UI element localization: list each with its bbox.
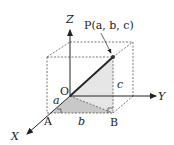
- point-p-dot: [111, 55, 115, 59]
- y-axis-label: Y: [158, 90, 167, 103]
- coordinate-diagram: Z Y X O P(a, b, c) A B a b c: [0, 0, 174, 145]
- length-b-label: b: [78, 115, 85, 128]
- origin-label: O: [60, 85, 69, 98]
- length-a-label: a: [53, 94, 60, 107]
- z-axis-label: Z: [65, 13, 74, 26]
- point-p-label: P(a, b, c): [84, 19, 134, 32]
- point-a-label: A: [43, 115, 53, 128]
- point-b-label: B: [110, 116, 118, 129]
- length-c-label: c: [117, 78, 123, 91]
- x-axis-label: X: [10, 130, 20, 143]
- p-label-pointer: [101, 33, 111, 53]
